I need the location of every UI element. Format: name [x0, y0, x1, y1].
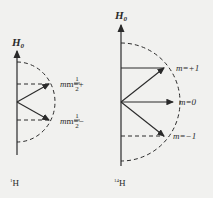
state-label-minus-one: m=−1: [173, 131, 196, 141]
spin-vector-up: [17, 84, 49, 102]
svg-text:2: 2: [75, 122, 79, 130]
proton-diagram: H0 mm=+ 1 2 mm=− 1 2 1H: [10, 36, 84, 188]
precession-semicircle-left: [17, 62, 55, 142]
state-label-minus-half: mm=− 1 2: [60, 112, 84, 130]
state-label-plus-one: m=+1: [176, 63, 199, 73]
nucleus-label-left: 1H: [10, 178, 20, 188]
spin-orientation-diagram: H0 mm=+ 1 2 mm=− 1 2 1H H0 m=+1 m=0: [0, 0, 213, 198]
svg-text:2: 2: [75, 85, 79, 93]
svg-text:mm=−: mm=−: [60, 116, 84, 126]
state-label-plus-half: mm=+ 1 2: [60, 75, 84, 93]
svg-text:mm=+: mm=+: [60, 79, 84, 89]
svg-text:1: 1: [75, 75, 79, 83]
spin-one-diagram: H0 m=+1 m=0 m=−1 14H: [114, 9, 199, 188]
state-label-zero: m=0: [179, 97, 197, 107]
nucleus-label-right: 14H: [114, 178, 126, 188]
spin-vector-plus-one: [121, 68, 164, 102]
spin-vector-down: [17, 102, 49, 120]
svg-text:1: 1: [75, 112, 79, 120]
field-label-left: H0: [11, 36, 25, 50]
spin-vector-minus-one: [121, 102, 164, 136]
field-label-right: H0: [114, 9, 128, 23]
